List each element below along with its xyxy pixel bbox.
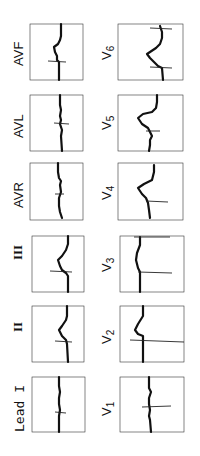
lead-ii-panel: II [10,306,84,362]
lead-v4-panel: V4 [99,163,183,220]
lead-label-avr: AVR [11,182,26,208]
ecg-grid [120,306,184,362]
lead-i-panel: Lead I [12,377,85,432]
lead-label-ii: II [10,322,25,332]
lead-label-avl: AVL [11,114,26,138]
lead-v3-panel: V3 [99,236,184,292]
lead-v6-panel: V6 [99,24,183,80]
lead-v5-panel: V5 [99,95,183,151]
lead-label-v2: V2 [99,329,116,344]
ecg-grid [30,24,83,80]
lead-label-avf: AVF [11,42,26,66]
lead-avl-panel: AVL [11,95,83,151]
lead-label-v4: V4 [99,185,116,200]
lead-avr-panel: AVR [11,163,83,220]
ecg-grid [118,163,183,220]
lead-v1-panel: V1 [99,377,184,432]
lead-label-v6: V6 [99,45,116,60]
ecg-grid [120,377,184,432]
ecg-grid [32,306,84,362]
ecg-trace [59,377,60,432]
lead-label-i: Lead I [12,385,27,432]
lead-label-v3: V3 [99,257,116,272]
ecg-grid [32,236,84,292]
lead-v2-panel: V2 [99,306,184,362]
lead-label-v5: V5 [99,115,116,130]
ecg-grid [30,163,83,220]
ecg-grid [120,236,184,292]
lead-label-v1: V1 [99,401,116,416]
lead-label-iii: III [10,245,25,260]
ecg-figure: AVF AVL AVR III II Lead I [0,0,200,456]
lead-iii-panel: III [10,236,84,292]
lead-avf-panel: AVF [11,24,83,80]
